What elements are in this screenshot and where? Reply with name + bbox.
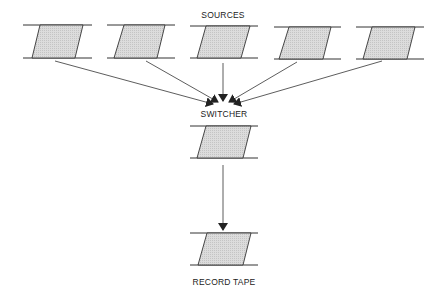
source-arrows — [55, 61, 382, 104]
source-tape-2 — [107, 25, 175, 58]
record-tape — [190, 233, 258, 265]
source-tape-4 — [274, 27, 341, 59]
diagram-canvas: SOURCES SWITCHER RECORD TAPE — [0, 0, 446, 296]
source-tape-5 — [356, 27, 424, 59]
sources-label: SOURCES — [201, 10, 244, 20]
diagram-svg — [0, 0, 446, 296]
switcher-label: SWITCHER — [201, 109, 248, 119]
source-tape-1 — [23, 25, 92, 58]
switcher-tape — [190, 126, 258, 158]
record-tape-label: RECORD TAPE — [193, 277, 256, 287]
source-tape-3 — [190, 26, 258, 58]
